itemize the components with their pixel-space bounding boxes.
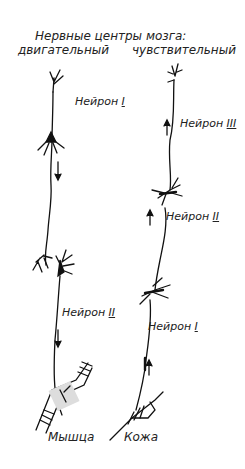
sensory-neuron-2-axon [155,208,166,290]
sensory-neuron-1-label: Нейрон I [148,320,198,333]
motor-neuron-1-body [46,132,56,142]
sensory-neuron-3-label: Нейрон III [180,117,236,130]
motor-neuron-1-label: Нейрон I [75,95,125,108]
motor-neuron-1-axon [45,92,53,265]
skin-label: Кожа [124,430,158,444]
muscle [36,362,92,433]
motor-neuron-2-label: Нейрон II [62,306,115,319]
sensory-neuron-1-axon [136,300,151,410]
neuron-diagram [0,0,245,469]
sensory-neuron-3-axon [169,80,174,190]
muscle-label: Мышца [48,430,94,444]
motor-neuron-1-dendrites [50,70,63,92]
sensory-neuron-2-label: Нейрон II [166,210,219,223]
